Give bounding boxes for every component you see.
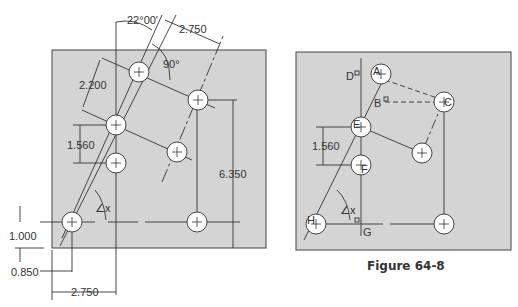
- label-g: G: [363, 226, 372, 238]
- dim-height-total: 6.350: [219, 168, 247, 180]
- dim-vertical-offset: 1.560: [67, 139, 95, 151]
- technical-drawing-figure: 22°00' 2.750 90° 2.200 1.560 6.350 ∠x 1.…: [0, 0, 518, 307]
- label-f: F: [361, 163, 368, 175]
- label-e: E: [353, 118, 360, 130]
- left-drawing: [15, 15, 266, 300]
- dim-bottom-spacing: 2.750: [71, 286, 99, 298]
- dim-vertical-offset-right: 1.560: [312, 140, 340, 152]
- dim-right-angle: 90°: [163, 58, 180, 70]
- label-a: A: [373, 65, 381, 77]
- dim-angle-top: 22°00': [127, 14, 158, 26]
- dim-left-offset: 0.850: [11, 266, 39, 278]
- dim-spacing-top: 2.750: [179, 23, 207, 35]
- dim-angle-x: ∠x: [95, 202, 111, 214]
- label-b: B: [374, 97, 381, 109]
- dim-angle-x-right: ∠x: [340, 204, 356, 216]
- label-d: D: [346, 70, 354, 82]
- figure-caption: Figure 64-8: [367, 259, 445, 273]
- label-h: H: [307, 214, 315, 226]
- dim-row-spacing: 2.200: [79, 79, 107, 91]
- dim-bottom-offset: 1.000: [9, 230, 37, 242]
- label-c: C: [444, 96, 452, 108]
